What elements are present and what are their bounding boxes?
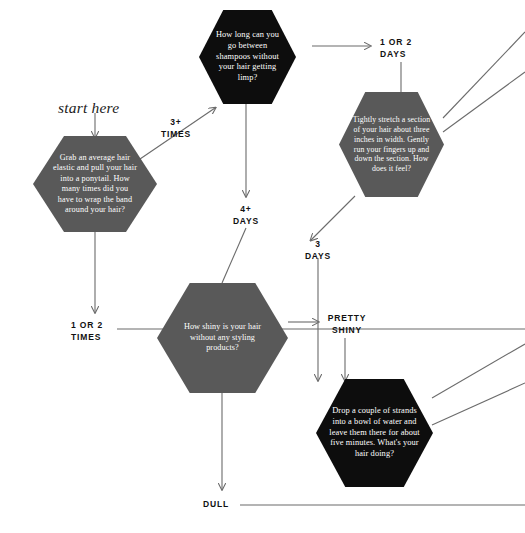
edge-label-four-plus-days: 4+ DAYS	[222, 204, 270, 227]
node-shiny-text: How shiny is your hair without any styli…	[157, 322, 288, 354]
edge-stretch-ray-upper	[443, 32, 525, 118]
edge-label-pretty-shiny-line2: SHINY	[321, 325, 373, 337]
edge-label-three-plus-times-line1: 3+	[152, 117, 200, 129]
node-water-text: Drop a couple of strands into a bowl of …	[316, 406, 433, 460]
flowchart-canvas: start here Grab an average hair elastic …	[0, 0, 525, 533]
edge-four-plus-days-to-shiny	[222, 228, 246, 283]
edge-water-ray-lower	[432, 383, 525, 425]
edge-label-dull-line1: DULL	[203, 499, 251, 511]
node-shampoo-text: How long can you go between shampoos wit…	[199, 30, 296, 84]
edge-label-one-or-two-times-line1: 1 OR 2	[71, 320, 119, 332]
edge-label-dull: DULL	[203, 499, 251, 511]
edge-label-three-plus-times-line2: TIMES	[152, 129, 200, 141]
edge-label-three-days: 3 DAYS	[296, 239, 340, 262]
node-water[interactable]: Drop a couple of strands into a bowl of …	[316, 379, 433, 487]
edge-label-one-or-two-days-line2: DAYS	[380, 49, 428, 61]
edge-label-one-or-two-times-line2: TIMES	[71, 332, 119, 344]
edge-label-one-or-two-days-line1: 1 OR 2	[380, 37, 428, 49]
edge-stretch-to-three-days	[311, 196, 355, 240]
edge-label-pretty-shiny: PRETTY SHINY	[321, 313, 373, 336]
edge-label-four-plus-days-line2: DAYS	[222, 216, 270, 228]
edge-label-one-or-two-times: 1 OR 2 TIMES	[71, 320, 119, 343]
node-shiny[interactable]: How shiny is your hair without any styli…	[157, 283, 288, 393]
node-stretch-text: Tightly stretch a section of your hair a…	[339, 115, 444, 175]
edge-label-pretty-shiny-line1: PRETTY	[321, 313, 373, 325]
edge-label-three-days-line1: 3	[296, 239, 340, 251]
edge-label-one-or-two-days: 1 OR 2 DAYS	[380, 37, 428, 60]
edge-stretch-ray-lower	[443, 72, 525, 132]
node-shampoo[interactable]: How long can you go between shampoos wit…	[199, 10, 296, 104]
edge-label-three-plus-times: 3+ TIMES	[152, 117, 200, 140]
edge-label-three-days-line2: DAYS	[296, 251, 340, 263]
node-ponytail-text: Grab an average hair elastic and pull yo…	[33, 153, 157, 216]
start-here-label: start here	[58, 99, 119, 117]
node-stretch[interactable]: Tightly stretch a section of your hair a…	[339, 92, 444, 197]
edge-water-ray-upper	[432, 344, 525, 398]
edge-label-four-plus-days-line1: 4+	[222, 204, 270, 216]
node-ponytail[interactable]: Grab an average hair elastic and pull yo…	[33, 136, 157, 232]
